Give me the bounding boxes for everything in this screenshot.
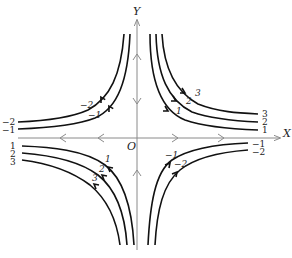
curve-label: −2 [174,159,188,169]
streamline-2 [22,153,127,245]
x-axis-label: X [282,127,292,140]
y-axis-label: Y [133,5,142,18]
end-label: −1 [2,125,15,135]
streamlines-top-right: 1 2 3 3 2 1 [150,34,268,135]
curve-label: 1 [105,154,111,164]
saddle-flow-diagram: Y X O 1 2 3 3 2 1 −2 −1 −2 −1 1 2 3 [0,0,292,258]
streamlines-bottom-right: −1 −2 −1 −2 [148,139,265,245]
curve-label: −2 [80,100,94,110]
curve-label: 2 [185,96,192,106]
streamline-3 [162,34,258,114]
end-label: 1 [262,125,268,135]
curve-label: 1 [176,106,182,116]
axes [18,20,280,250]
origin-label: O [127,140,136,153]
end-label: 3 [10,157,16,167]
streamlines-bottom-left: 1 2 3 1 2 3 [10,141,134,245]
end-label: −2 [252,147,265,157]
streamline-3 [22,160,120,245]
flow-arrow-icon [171,96,176,101]
streamlines-top-left: −2 −1 −2 −1 [2,34,130,135]
curve-label: 3 [195,88,201,98]
curve-label: 3 [92,173,98,183]
curve-label: −1 [88,110,101,120]
curve-label: 2 [98,164,105,174]
streamline-2 [156,34,258,122]
